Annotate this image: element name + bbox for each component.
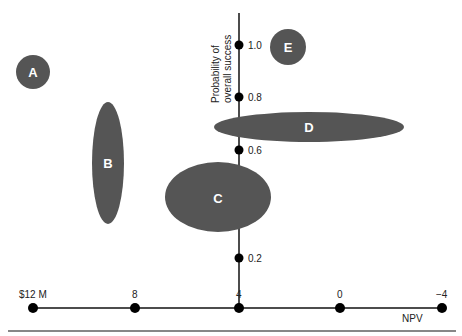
x-tick-dot — [130, 303, 140, 313]
y-tick-dot — [235, 146, 244, 155]
x-tick-dot — [234, 303, 244, 313]
y-axis-title: Probability of overall success — [210, 35, 233, 103]
y-tick-label: 1.0 — [248, 40, 262, 51]
y-tick-label: 0.6 — [248, 145, 262, 156]
chart-canvas: 1.0 0.8 0.6 0.2 Probability of overall s… — [0, 0, 462, 336]
bubble-c: C — [165, 162, 271, 232]
bubble-label: B — [103, 156, 112, 171]
y-tick-dot — [235, 41, 244, 50]
y-axis-title-line1: Probability of — [210, 45, 221, 103]
x-tick-dot — [335, 303, 345, 313]
bubble-label: C — [213, 191, 223, 206]
bubble-b: B — [92, 102, 124, 224]
y-tick-label: 0.2 — [248, 253, 262, 264]
x-tick-dot — [28, 303, 38, 313]
y-tick-dot — [235, 254, 244, 263]
bubble-d: D — [214, 112, 404, 142]
x-tick-label: 0 — [337, 289, 343, 300]
bubble-label: A — [28, 65, 38, 80]
x-tick-label: $12 M — [19, 289, 47, 300]
x-tick-label: 4 — [236, 289, 242, 300]
x-tick-dot — [437, 303, 447, 313]
y-tick-dot — [235, 93, 244, 102]
x-tick-label: −4 — [436, 289, 448, 300]
bubble-label: E — [284, 40, 293, 55]
bubble-e: E — [270, 29, 306, 65]
x-tick-label: 8 — [132, 289, 138, 300]
bubble-a: A — [16, 55, 50, 89]
y-axis-title-line2: overall success — [222, 35, 233, 103]
x-axis-ticks: $12 M 8 4 0 −4 — [19, 289, 448, 313]
x-axis-title: NPV — [402, 313, 423, 324]
y-tick-label: 0.8 — [248, 92, 262, 103]
bubble-label: D — [304, 120, 313, 135]
